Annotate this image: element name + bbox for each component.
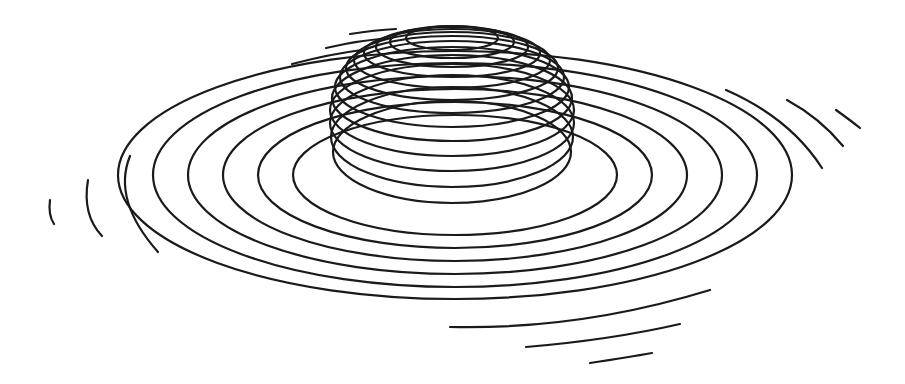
ripple-arc <box>50 200 55 224</box>
ripple-arc <box>787 100 843 146</box>
ripple-arc <box>87 180 102 236</box>
brim-ring <box>153 63 757 287</box>
surface-line-drawing <box>0 0 905 384</box>
ripple-arc <box>590 353 652 363</box>
brim-ring <box>258 102 652 248</box>
outer-ripple-arcs <box>50 29 861 363</box>
ripple-arc <box>350 29 396 34</box>
ripple-arc <box>526 324 680 347</box>
ripple-arc <box>726 90 822 168</box>
brim-ring <box>188 76 722 274</box>
ripple-arc <box>836 110 860 128</box>
ripple-arc <box>450 290 710 327</box>
sombrero-surface-figure <box>0 0 905 384</box>
